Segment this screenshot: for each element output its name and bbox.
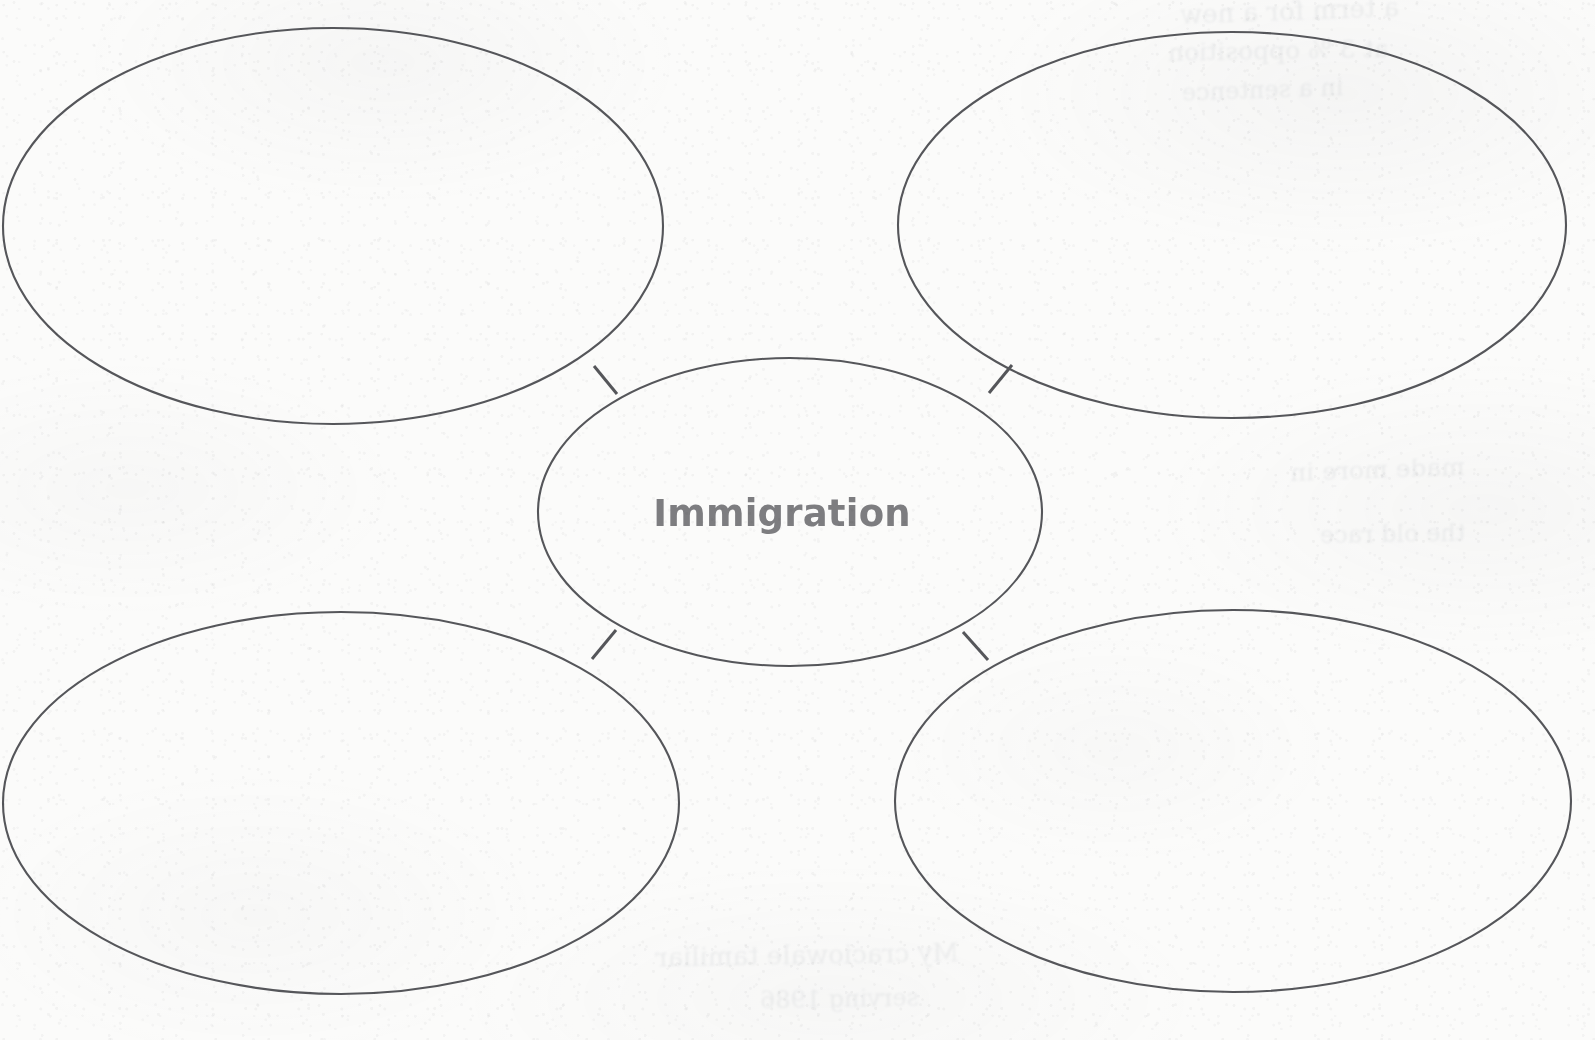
concept-web-diagram: Immigration — [0, 0, 1595, 1040]
connector-bottom-left-line — [592, 630, 616, 659]
connector-top-right-line — [989, 365, 1012, 393]
worksheet-page: Immigration a term for a newat 3 % oppos… — [0, 0, 1595, 1040]
bubble-bottom-left[interactable] — [3, 612, 679, 994]
connector-top-left-line — [594, 366, 617, 394]
connector-bottom-right-line — [963, 632, 988, 660]
bubble-bottom-right[interactable] — [895, 610, 1571, 992]
bubble-top-right[interactable] — [898, 32, 1566, 418]
bubble-top-left[interactable] — [3, 28, 663, 424]
center-topic-label: Immigration — [653, 492, 911, 535]
